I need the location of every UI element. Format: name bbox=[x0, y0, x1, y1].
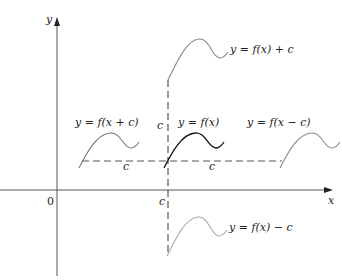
label-f: y = f(x) bbox=[178, 117, 219, 128]
curve-f-minus-c bbox=[167, 217, 227, 256]
origin-label: 0 bbox=[47, 196, 54, 207]
curve-f-x-minus-c bbox=[280, 133, 340, 168]
label-f-minus-c: y = f(x) − c bbox=[229, 222, 293, 233]
x-axis bbox=[0, 187, 333, 193]
curve-f-x-plus-c bbox=[79, 133, 139, 168]
label-f-x-minus-c: y = f(x − c) bbox=[247, 117, 311, 128]
x-axis-arrow-icon bbox=[324, 187, 333, 193]
x-axis-label: x bbox=[328, 195, 334, 206]
shift-label-vertical-down: c bbox=[159, 196, 165, 207]
y-axis bbox=[54, 17, 60, 276]
function-shift-diagram: y x 0 c c c c y = f(x) + c y = f(x + c) … bbox=[0, 0, 342, 280]
shift-label-right: c bbox=[209, 161, 215, 172]
y-axis-label: y bbox=[46, 14, 52, 25]
label-f-x-plus-c: y = f(x + c) bbox=[75, 117, 139, 128]
y-axis-arrow-icon bbox=[54, 17, 60, 26]
diagram-canvas bbox=[0, 0, 342, 280]
label-f-plus-c: y = f(x) + c bbox=[230, 44, 294, 55]
shift-label-left: c bbox=[123, 161, 129, 172]
curve-f-plus-c bbox=[168, 39, 228, 80]
shift-label-vertical-up: c bbox=[157, 120, 163, 131]
